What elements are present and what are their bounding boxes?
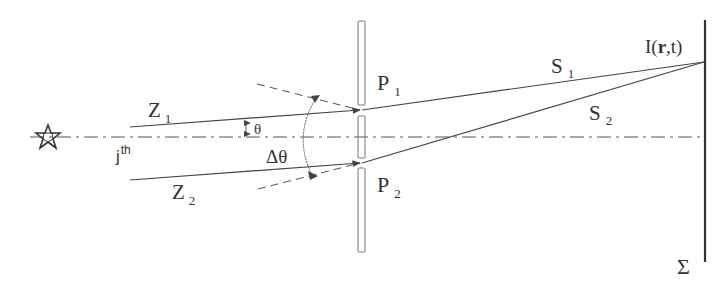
theta-arrow-top bbox=[244, 120, 251, 126]
label-p1: P1 bbox=[377, 70, 401, 99]
label-theta: θ bbox=[254, 121, 261, 137]
label-s2: S2 bbox=[589, 101, 612, 128]
path-s2 bbox=[362, 62, 704, 163]
diagram-canvas: Z1 Z2 jth θ Δθ P1 P2 S1 S2 I(r,t) Σ bbox=[0, 0, 726, 296]
label-intensity: I(r,t) bbox=[645, 36, 682, 58]
interference-diagram: Z1 Z2 jth θ Δθ P1 P2 S1 S2 I(r,t) Σ bbox=[0, 0, 726, 296]
label-z1: Z1 bbox=[148, 98, 171, 126]
label-z2: Z2 bbox=[172, 180, 195, 208]
label-jth: jth bbox=[115, 143, 131, 166]
label-screen: Σ bbox=[677, 254, 690, 279]
label-p2: P2 bbox=[377, 172, 401, 201]
dashed-direction-1 bbox=[257, 84, 360, 110]
theta-arrow-bottom bbox=[244, 131, 251, 137]
star-icon bbox=[36, 125, 60, 148]
label-delta-theta: Δθ bbox=[266, 146, 287, 167]
label-s1: S1 bbox=[551, 54, 574, 81]
path-s1 bbox=[362, 62, 704, 110]
arc-arrow-bottom bbox=[308, 171, 318, 180]
arc-arrow-top bbox=[311, 95, 320, 103]
